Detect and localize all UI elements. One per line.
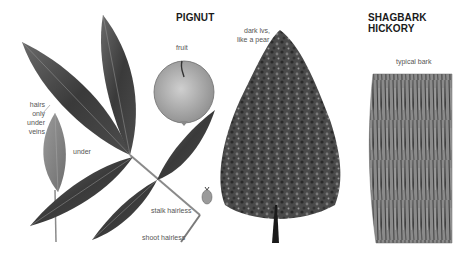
label-typical-bark: typical bark [396,58,431,66]
title-shagbark-hickory: SHAGBARK HICKORY [368,12,462,34]
bark-icon [369,74,452,243]
label-hairs-2: only [29,110,45,118]
tree-icon [220,30,340,243]
botanical-plate: PIGNUT SHAGBARK HICKORY fruit hairs only… [0,0,462,261]
label-tree-2: like a pear [237,36,269,44]
label-stalk-hairless: stalk hairless [151,207,191,215]
label-hairs-3: under [26,119,45,127]
title-pignut: PIGNUT [176,12,214,23]
fruit-icon [154,61,214,126]
label-hairs-4: veins [26,128,45,136]
label-fruit: fruit [176,44,188,52]
label-under: under [73,148,91,156]
label-tree-1: dark lvs, [244,27,270,35]
label-hairs-1: hairs [29,101,45,109]
illustration-canvas [0,0,462,261]
label-shoot-hairless: shoot hairless [142,234,185,242]
